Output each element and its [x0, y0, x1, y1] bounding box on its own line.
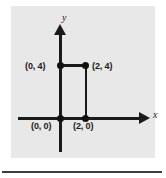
arrow-right-icon [139, 112, 150, 124]
y-axis-line [59, 34, 62, 152]
coordinate-plane-figure: x y (0, 4) (2, 4) (0, 0) (2, 0) [0, 0, 166, 178]
arrow-up-icon [54, 24, 66, 35]
point-label: (2, 0) [73, 121, 93, 131]
point-label: (2, 4) [92, 61, 112, 71]
y-axis-label: y [62, 12, 66, 23]
point-label: (0, 0) [31, 121, 51, 131]
point-label: (0, 4) [25, 61, 45, 71]
x-axis-label: x [153, 109, 157, 120]
right-segment [85, 64, 87, 118]
data-point [82, 62, 89, 69]
plot-panel: x y (0, 4) (2, 4) (0, 0) (2, 0) [11, 6, 155, 158]
x-axis-line [18, 117, 141, 120]
data-point [57, 62, 64, 69]
footer-rule [2, 171, 162, 173]
data-point [57, 115, 64, 122]
